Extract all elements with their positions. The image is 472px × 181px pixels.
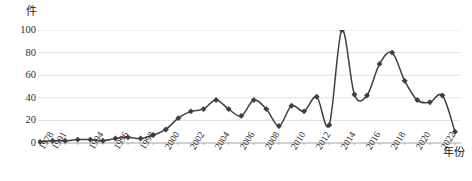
x-axis-tick-labels: 1978199119941996199820002002200420062008… [0, 0, 472, 181]
x-axis-title: 年份 [443, 143, 465, 159]
x-axis-tick-label: 2018 [389, 130, 408, 151]
x-axis-tick-label: 2004 [213, 130, 232, 151]
x-axis-tick-label: 2010 [289, 130, 308, 151]
x-axis-tick-label: 1996 [112, 130, 131, 151]
x-axis-tick-label: 2016 [364, 130, 383, 151]
x-axis-tick-label: 2006 [238, 130, 257, 151]
x-axis-tick-label: 2020 [414, 130, 433, 151]
x-axis-tick-label: 2014 [339, 130, 358, 151]
line-chart: 件 020406080100 1978199119941996199820002… [0, 0, 472, 181]
x-axis-tick-label: 2012 [314, 130, 333, 151]
x-axis-tick-label: 2002 [188, 130, 207, 151]
x-axis-tick-label: 2008 [263, 130, 282, 151]
x-axis-tick-label: 1994 [87, 130, 106, 151]
x-axis-tick-label: 2000 [163, 130, 182, 151]
x-axis-tick-label: 1998 [138, 130, 157, 151]
